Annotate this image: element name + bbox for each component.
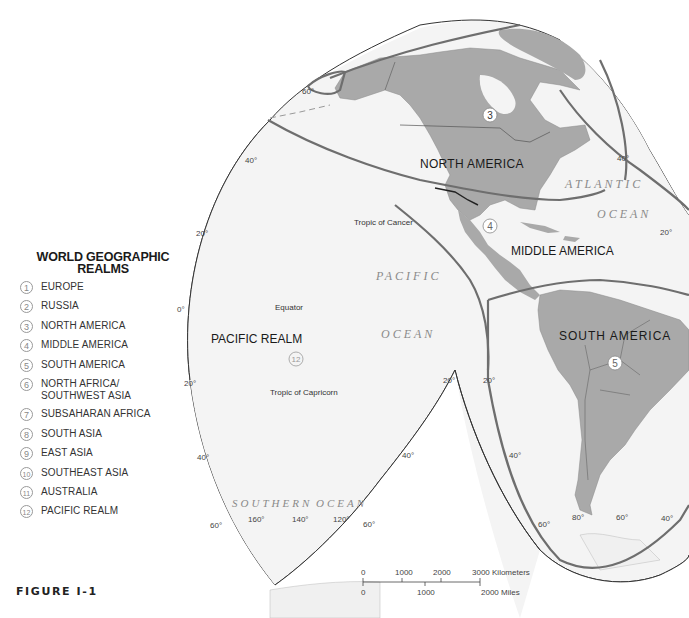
pacific-ocean-label-1: PACIFIC (375, 269, 441, 283)
lat-20n-right: 20° (660, 228, 672, 237)
legend-item: 10SOUTHEAST ASIA (20, 467, 180, 480)
south-america-label: SOUTH AMERICA (559, 329, 671, 343)
legend-item: 2RUSSIA (20, 300, 180, 313)
atlantic-ocean-label-2: OCEAN (597, 207, 651, 221)
scale-km-2000: 2000 (433, 568, 451, 577)
lat-40s-far-right: 40° (661, 514, 673, 523)
number-circle-icon: 3 (20, 320, 33, 333)
lat-40n-right: 40° (617, 154, 629, 163)
southern-ocean-label-2: OCEAN (316, 497, 367, 509)
number-circle-icon: 11 (20, 486, 33, 499)
lat-40n-left: 40° (245, 156, 257, 165)
lon-60: 60° (616, 513, 628, 522)
number-circle-icon: 5 (20, 359, 33, 372)
lat-60n: 60° (302, 87, 314, 96)
lat-20n-left: 20° (196, 229, 208, 238)
figure-label: FIGURE I-1 (16, 585, 98, 598)
legend-item: 11AUSTRALIA (20, 486, 180, 499)
lat-60s-mid-right: 60° (538, 520, 550, 529)
lat-20s-mid-right: 20° (483, 376, 495, 385)
pacific-realm-label: PACIFIC REALM (211, 332, 302, 346)
legend-item: 12PACIFIC REALM (20, 505, 180, 518)
legend-item: 7SUBSAHARAN AFRICA (20, 408, 180, 421)
legend-item: 1EUROPE (20, 281, 180, 294)
legend-title: WORLD GEOGRAPHIC REALMS (28, 251, 178, 275)
legend-item: 4MIDDLE AMERICA (20, 339, 180, 352)
number-circle-icon: 10 (20, 467, 33, 480)
realm-marker-4: 4 (483, 219, 497, 233)
svg-text:4: 4 (487, 221, 493, 232)
lon-120: 120° (333, 515, 350, 524)
lon-160: 160° (248, 515, 265, 524)
realm-marker-3: 3 (483, 108, 497, 122)
lat-40s-mid-right: 40° (509, 451, 521, 460)
legend-list: 1EUROPE 2RUSSIA 3NORTH AMERICA 4MIDDLE A… (20, 281, 180, 518)
tropic-of-capricorn-label: Tropic of Capricorn (270, 388, 338, 397)
atlantic-ocean-label-1: ATLANTIC (564, 177, 643, 191)
legend: WORLD GEOGRAPHIC REALMS 1EUROPE 2RUSSIA … (20, 251, 180, 525)
southern-ocean-label-1: SOUTHERN (232, 497, 312, 509)
svg-text:5: 5 (612, 358, 618, 369)
tropic-of-cancer-label: Tropic of Cancer (354, 218, 413, 227)
realm-marker-5: 5 (608, 356, 622, 370)
lat-40s-mid-left: 40° (402, 451, 414, 460)
number-circle-icon: 1 (20, 281, 33, 294)
lat-40s-left: 40° (197, 453, 209, 462)
number-circle-icon: 2 (20, 300, 33, 313)
lon-140: 140° (292, 515, 309, 524)
number-circle-icon: 9 (20, 447, 33, 460)
lat-20s-left: 20° (184, 379, 196, 388)
lat-20s-mid-left: 20° (443, 376, 455, 385)
svg-text:3: 3 (487, 110, 493, 121)
number-circle-icon: 6 (20, 378, 33, 391)
scale-km-1000: 1000 (395, 568, 413, 577)
equator-label: Equator (275, 303, 303, 312)
pacific-ocean-label-2: OCEAN (381, 327, 435, 341)
scale-km-3000: 3000 Kilometers (472, 568, 530, 577)
scale-mi-0: 0 (361, 588, 366, 597)
middle-america-label: MIDDLE AMERICA (511, 244, 614, 258)
legend-item: 5SOUTH AMERICA (20, 359, 180, 372)
scale-mi-2000: 2000 Miles (481, 588, 520, 597)
scale-mi-1000: 1000 (417, 588, 435, 597)
lon-80: 80° (572, 513, 584, 522)
number-circle-icon: 4 (20, 339, 33, 352)
svg-text:12: 12 (292, 355, 301, 364)
legend-item: 9EAST ASIA (20, 447, 180, 460)
realm-marker-12: 12 (289, 352, 303, 366)
legend-item: 8SOUTH ASIA (20, 428, 180, 441)
legend-item: 3NORTH AMERICA (20, 320, 180, 333)
legend-item: 6NORTH AFRICA/ SOUTHWEST ASIA (20, 378, 180, 402)
north-america-label: NORTH AMERICA (420, 157, 524, 171)
number-circle-icon: 8 (20, 428, 33, 441)
legend-title-line-2: REALMS (28, 263, 178, 275)
lat-60s-left: 60° (210, 521, 222, 530)
lat-60s-mid-left: 60° (363, 520, 375, 529)
scale-km-0: 0 (361, 568, 366, 577)
number-circle-icon: 12 (20, 505, 33, 518)
number-circle-icon: 7 (20, 408, 33, 421)
